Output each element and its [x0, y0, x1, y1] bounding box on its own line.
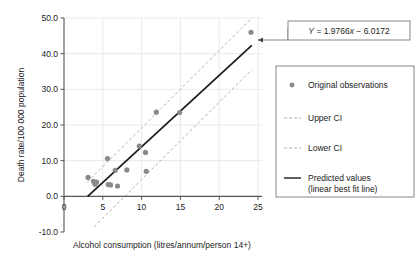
legend-label-predicted-sub: (linear best fit line): [308, 184, 378, 194]
equation-leader-line: [258, 28, 288, 43]
y-tick-label: 30.0: [41, 84, 58, 94]
ci-line-path: [87, 18, 252, 182]
legend-label-upper-ci: Upper CI: [308, 113, 342, 123]
data-point: [137, 143, 142, 148]
x-tick-label: 20: [214, 202, 224, 212]
equation-text: Y = 1.9766x − 6.0172: [308, 26, 390, 36]
gridlines: [64, 18, 262, 196]
data-point: [124, 167, 129, 172]
data-point: [105, 156, 110, 161]
confidence-interval-lines: [87, 18, 252, 227]
data-point: [154, 110, 159, 115]
y-axis-title: Death rate/100 000 population: [16, 68, 26, 183]
data-point: [108, 182, 113, 187]
chart-root: -10.00.010.020.030.040.050.0 0510152025 …: [0, 0, 417, 263]
y-tick-label: 50.0: [41, 13, 58, 23]
data-point: [115, 183, 120, 188]
legend-label-observations: Original observations: [308, 80, 388, 90]
x-tick-labels: 0510152025: [62, 202, 263, 212]
x-tick-label: 15: [176, 202, 186, 212]
y-tick-label: 0.0: [46, 191, 58, 201]
y-tick-label: 40.0: [41, 49, 58, 59]
best-fit-line-path: [88, 45, 252, 196]
y-tick-label: -10.0: [39, 227, 59, 237]
ci-line-path: [94, 70, 252, 227]
x-tick-label: 0: [62, 202, 67, 212]
x-tick-label: 10: [137, 202, 147, 212]
x-axis-title: Alcohol consumption (litres/annum/person…: [73, 240, 251, 250]
equation-box: Y = 1.9766x − 6.0172: [288, 21, 410, 40]
y-tick-labels: -10.00.010.020.030.040.050.0: [39, 13, 59, 237]
x-tick-label: 25: [253, 202, 263, 212]
equation-expression: = 1.9766: [314, 26, 350, 36]
legend-marker-observations-icon: [290, 83, 295, 88]
legend-label-lower-ci: Lower CI: [308, 143, 342, 153]
data-point: [85, 175, 90, 180]
scatter-chart: -10.00.010.020.030.040.050.0 0510152025 …: [0, 0, 417, 263]
data-point: [177, 110, 182, 115]
data-point: [248, 30, 253, 35]
y-tick-label: 10.0: [41, 156, 58, 166]
y-tick-label: 20.0: [41, 120, 58, 130]
data-point: [144, 169, 149, 174]
data-point: [113, 168, 118, 173]
equation-tail: − 6.0172: [354, 26, 390, 36]
x-tick-label: 5: [100, 202, 105, 212]
data-point: [94, 179, 99, 184]
legend: Original observations Upper CI Lower CI …: [276, 66, 414, 197]
data-point: [143, 150, 148, 155]
best-fit-line: [88, 45, 252, 196]
legend-label-predicted: Predicted values: [308, 173, 371, 183]
